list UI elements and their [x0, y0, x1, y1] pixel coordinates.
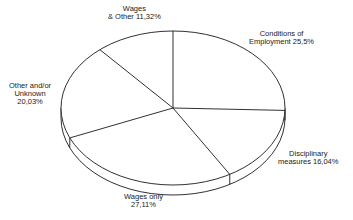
label-wages-only: Wages only 27,11% [124, 193, 163, 209]
label-line: Employment 25,5% [249, 38, 314, 46]
label-line: 20,03% [9, 98, 51, 106]
label-line: 27,11% [124, 201, 163, 209]
label-disciplinary-measures: Disciplinary measures 16,04% [278, 150, 338, 166]
label-conditions-of-employment: Conditions of Employment 25,5% [249, 30, 314, 46]
label-wages-other: Wages & Other 11,32% [108, 5, 161, 21]
label-line: measures 16,04% [278, 158, 338, 166]
pie-top-face [61, 31, 285, 185]
label-other-unknown: Other and/or Unknown 20,03% [9, 82, 51, 106]
label-line: & Other 11,32% [108, 13, 161, 21]
